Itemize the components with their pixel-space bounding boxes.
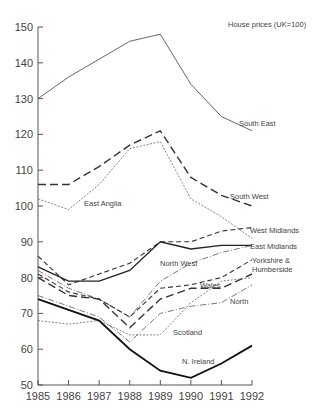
y-tick-label: 70: [21, 307, 33, 319]
x-tick-label: 1986: [56, 390, 80, 402]
label-north-west: North West: [160, 259, 198, 268]
y-tick-label: 60: [21, 343, 33, 355]
house-prices-chart: 1501401301201101009080706050198519861987…: [0, 0, 315, 420]
y-tick-label: 80: [21, 272, 33, 284]
label-yorkshire-line2: Humberside: [252, 265, 292, 274]
label-n-ireland: N. Ireland: [182, 357, 215, 366]
chart-title: House prices (UK=100): [228, 20, 307, 29]
y-tick-label: 90: [21, 236, 33, 248]
axes: 1501401301201101009080706050198519861987…: [15, 21, 265, 402]
x-tick-label: 1989: [148, 390, 172, 402]
label-south-west: South West: [230, 192, 270, 201]
x-tick-label: 1987: [87, 390, 111, 402]
series-east-anglia: [38, 142, 252, 239]
x-tick-label: 1991: [209, 390, 233, 402]
series-north: [38, 285, 252, 342]
label-west-midlands: West Midlands: [250, 226, 299, 235]
y-tick-label: 150: [15, 21, 33, 33]
series-south-west: [38, 131, 252, 206]
series-n-ireland: [38, 299, 252, 378]
x-tick-label: 1992: [240, 390, 264, 402]
y-tick-label: 110: [15, 164, 33, 176]
label-east-anglia: East Anglia: [84, 199, 122, 208]
x-tick-label: 1988: [117, 390, 141, 402]
label-north: North: [230, 297, 248, 306]
label-wales: Wales: [200, 281, 221, 290]
y-tick-label: 100: [15, 200, 33, 212]
label-scotland: Scotland: [173, 328, 202, 337]
series-south-east: [38, 34, 252, 131]
series-east-midlands: [38, 242, 252, 281]
x-tick-label: 1990: [179, 390, 203, 402]
label-east-midlands: East Midlands: [250, 242, 297, 251]
label-south-east: South East: [239, 119, 277, 128]
y-tick-label: 120: [15, 128, 33, 140]
y-tick-label: 140: [15, 57, 33, 69]
label-yorkshire-line1: Yorkshire &: [252, 256, 290, 265]
x-tick-label: 1985: [26, 390, 50, 402]
y-tick-label: 130: [15, 93, 33, 105]
series-lines: [38, 34, 252, 378]
